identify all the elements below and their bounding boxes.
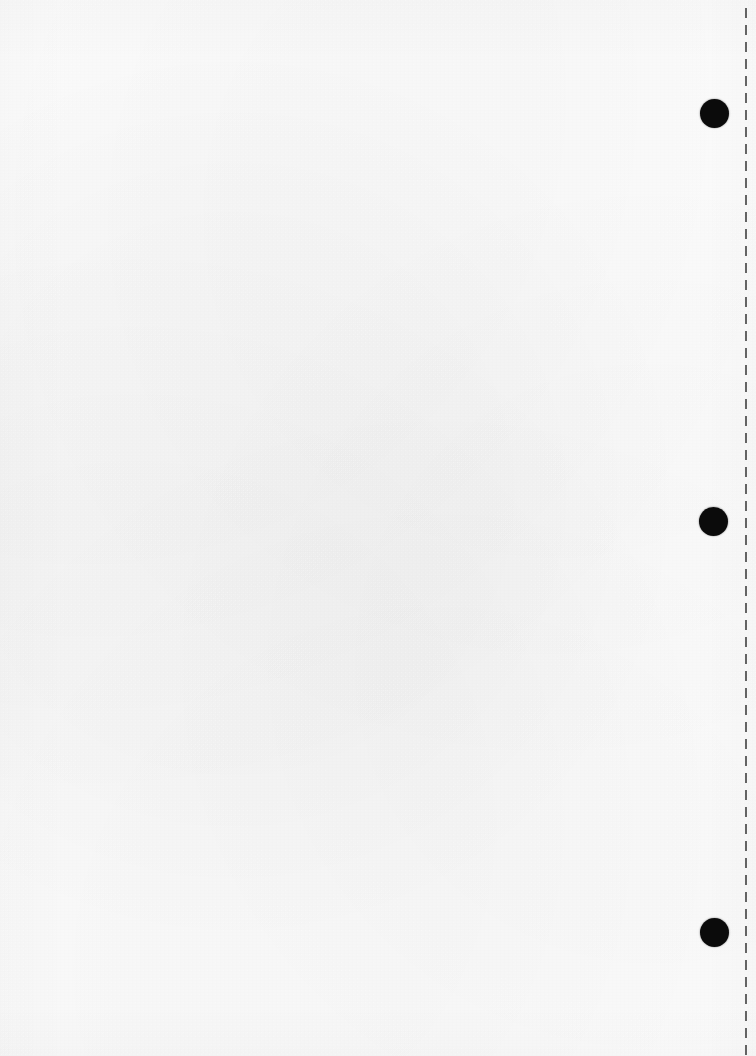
punch-mark-top [700, 99, 729, 128]
punch-mark-middle [699, 507, 728, 536]
punch-mark-bottom [700, 918, 729, 947]
scanned-page [0, 0, 756, 1056]
page-content-area [0, 0, 700, 1056]
perforation-dashed-line [745, 8, 747, 1056]
